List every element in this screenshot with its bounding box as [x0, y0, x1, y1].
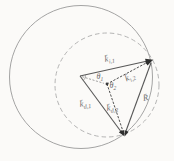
label-kd1: k̄d,1 — [79, 98, 92, 111]
label-ki2: k̄i,2 — [123, 70, 137, 85]
kspace-diagram-canvas: k̄i,1 k̄i,2 k̄d,1 k̄d,2 R̄ θ1 θ2 — [0, 0, 174, 161]
label-ki1: k̄i,1 — [104, 52, 116, 65]
label-kd2: k̄d,2 — [106, 102, 119, 115]
dashed-circle-center-dot — [106, 83, 109, 86]
kspace-diagram-figure: k̄i,1 k̄i,2 k̄d,1 k̄d,2 R̄ θ1 θ2 — [0, 0, 174, 161]
label-theta1: θ1 — [97, 72, 104, 82]
label-theta2: θ2 — [110, 81, 117, 91]
label-R: R̄ — [141, 92, 150, 103]
